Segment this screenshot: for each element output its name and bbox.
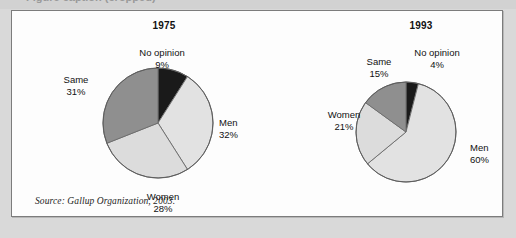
pie-1975-label-men-name: Men bbox=[219, 117, 237, 128]
pie-1975-label-same-value: 31% bbox=[52, 86, 100, 98]
pie-chart-1993 bbox=[351, 77, 473, 199]
pie-1993-label-same: Same 15% bbox=[359, 56, 399, 79]
pie-1993-label-women: Women 21% bbox=[319, 109, 369, 132]
pie-1993-label-men-name: Men bbox=[470, 142, 488, 153]
pie-1975-label-same: Same 31% bbox=[52, 74, 100, 97]
chart-title-1975: 1975 bbox=[124, 20, 204, 31]
source-note: Source: Gallup Organization, 2003. bbox=[35, 196, 175, 206]
pie-1993-label-same-value: 15% bbox=[359, 68, 399, 80]
figure-frame: 1975 1993 No opinion 9% Same 31% Men 32%… bbox=[11, 10, 503, 217]
pie-1975-label-no-opinion-name: No opinion bbox=[139, 47, 184, 58]
pie-1993-label-women-name: Women bbox=[328, 109, 361, 120]
pie-1975-label-men-value: 32% bbox=[219, 129, 267, 141]
cropped-caption-text: Figure caption (cropped) bbox=[26, 0, 156, 3]
pie-1975-label-no-opinion-value: 9% bbox=[116, 59, 208, 71]
pie-chart-1975 bbox=[98, 63, 230, 195]
chart-title-1993: 1993 bbox=[381, 20, 461, 31]
pie-1975-label-same-name: Same bbox=[64, 74, 89, 85]
pie-1975-label-men: Men 32% bbox=[219, 117, 267, 140]
cropped-caption-sliver: Figure caption (cropped) bbox=[0, 0, 516, 9]
pie-1993-label-same-name: Same bbox=[367, 56, 392, 67]
pie-1975-label-no-opinion: No opinion 9% bbox=[116, 47, 208, 70]
pie-1993-label-no-opinion: No opinion 4% bbox=[397, 47, 477, 70]
pie-1993-label-no-opinion-name: No opinion bbox=[414, 47, 459, 58]
pie-1993-label-women-value: 21% bbox=[319, 121, 369, 133]
pie-1993-label-no-opinion-value: 4% bbox=[397, 59, 477, 71]
pie-1993-label-men: Men 60% bbox=[470, 142, 512, 165]
pie-1993-label-men-value: 60% bbox=[470, 154, 512, 166]
